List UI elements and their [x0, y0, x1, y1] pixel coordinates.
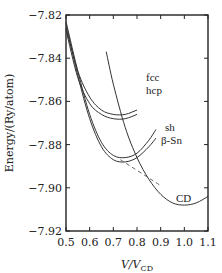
series-label: hcp — [146, 84, 162, 96]
y-axis-title: Energy/(Ry/atom) — [3, 74, 16, 172]
x-tick-label: 1.0 — [176, 236, 194, 249]
chart: 0.50.60.70.80.91.01.1−7.82−7.84−7.86−7.8… — [0, 0, 222, 273]
x-tick-label: 1.1 — [199, 236, 217, 249]
y-tick-label: −7.92 — [28, 225, 62, 238]
series-label: fcc — [146, 71, 160, 83]
x-tick-label: 0.9 — [152, 236, 170, 249]
y-tick-label: −7.86 — [28, 95, 62, 108]
y-tick-label: −7.88 — [28, 139, 62, 152]
series-label: CD — [176, 192, 191, 204]
series-sh-curve — [66, 22, 156, 158]
series-label: β-Sn — [161, 134, 182, 146]
y-tick-label: −7.84 — [28, 52, 62, 65]
x-axis-title: V/VCD — [121, 258, 153, 273]
series-hcp-curve — [66, 30, 137, 119]
y-tick-label: −7.90 — [28, 182, 62, 195]
series-label: sh — [165, 121, 175, 133]
x-tick-label: 0.6 — [81, 236, 99, 249]
y-tick-label: −7.82 — [28, 9, 62, 22]
x-tick-label: 0.7 — [105, 236, 123, 249]
plot-area: 0.50.60.70.80.91.01.1−7.82−7.84−7.86−7.8… — [3, 9, 217, 273]
x-tick-label: 0.8 — [128, 236, 146, 249]
series--sn-curve — [66, 24, 156, 162]
series-common-tangent-curve — [120, 160, 160, 186]
